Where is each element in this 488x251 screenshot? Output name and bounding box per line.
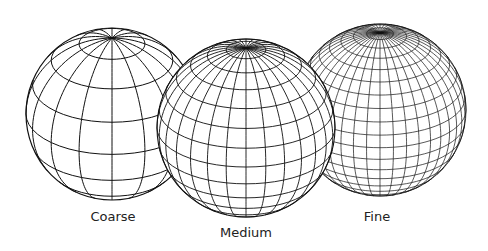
fine-label: Fine bbox=[364, 209, 390, 224]
medium-label: Medium bbox=[220, 225, 272, 240]
medium-sphere-wireframe bbox=[157, 39, 335, 217]
coarse-label: Coarse bbox=[90, 209, 135, 224]
sphere-resolution-figure: Coarse Fine Medium bbox=[0, 0, 488, 251]
spheres-canvas bbox=[0, 0, 488, 251]
